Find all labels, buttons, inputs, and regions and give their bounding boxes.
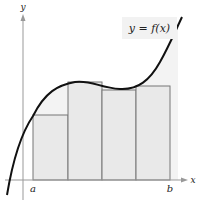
x-axis-arrow-icon (181, 178, 188, 183)
riemann-sum-figure: y = f(x) y x a b (0, 0, 200, 205)
y-axis-arrow-icon (21, 14, 26, 21)
rectangle-2 (68, 82, 102, 180)
x-axis-label: x (190, 175, 195, 185)
graph-canvas: y = f(x) y x a b (0, 0, 200, 205)
rectangle-1 (33, 115, 68, 180)
interval-label-a: a (30, 183, 36, 194)
y-axis-label: y (19, 2, 26, 12)
rectangle-3 (102, 90, 136, 180)
interval-label-b: b (167, 183, 173, 194)
rectangle-4 (136, 86, 170, 180)
function-label: y = f(x) (128, 22, 170, 35)
